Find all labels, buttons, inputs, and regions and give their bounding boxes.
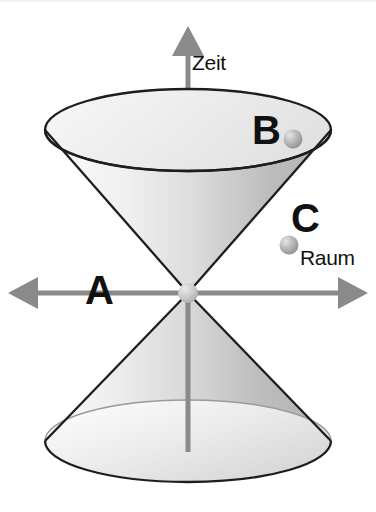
arrow-right-icon — [338, 277, 368, 309]
event-label-c: C — [291, 198, 319, 238]
origin-sphere — [178, 283, 198, 303]
future-light-cone — [45, 89, 331, 293]
event-label-b: B — [252, 110, 280, 150]
event-sphere-b — [284, 130, 303, 149]
axis-label-zeit: Zeit — [192, 52, 226, 73]
arrow-left-icon — [8, 277, 38, 309]
light-cone-diagram: Zeit Raum A B C — [0, 0, 376, 512]
event-label-a: A — [85, 270, 113, 310]
axis-label-raum: Raum — [300, 247, 355, 268]
